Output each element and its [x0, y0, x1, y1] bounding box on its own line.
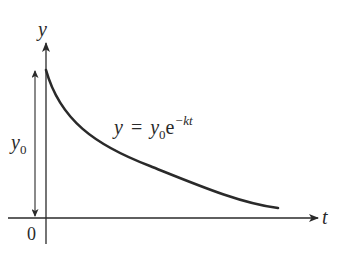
y-axis-label: y	[36, 18, 47, 41]
x-axis-label: t	[322, 206, 328, 228]
origin-label: 0	[27, 224, 36, 244]
equation-label: y = y0e−kt	[112, 113, 193, 142]
decay-diagram: y t 0 y0 y = y0e−kt	[0, 0, 342, 265]
initial-value-label: y0	[9, 131, 26, 157]
